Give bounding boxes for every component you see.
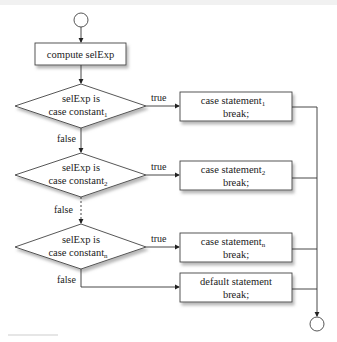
true-label-1: true [151,92,167,103]
true-label-n: true [151,233,167,244]
case-box-1: case statement1 break; [180,92,292,121]
decision-2: selExp is case constant2 [15,153,146,197]
svg-text:selExp is: selExp is [62,234,100,245]
svg-text:break;: break; [223,177,249,188]
svg-text:break;: break; [223,289,249,300]
svg-text:selExp is: selExp is [62,93,100,104]
switch-flowchart: compute selExp selExp is case constant1 … [0,0,337,342]
end-node [310,317,324,331]
decision-1: selExp is case constant1 [15,84,146,128]
true-label-2: true [151,161,167,172]
decision-n: selExp is case constantn [15,224,146,269]
case-box-2: case statement2 break; [180,161,292,190]
svg-text:default statement: default statement [200,276,272,287]
false-label-2: false [54,204,73,215]
false-label-n: false [57,274,76,285]
svg-text:break;: break; [223,108,249,119]
start-node [74,13,88,27]
svg-text:selExp is: selExp is [62,162,100,173]
case-box-n: case statementn break; [180,233,292,262]
compute-box: compute selExp [35,43,126,65]
default-box: default statement break; [180,273,292,302]
figure-caption-fragment [8,334,58,336]
svg-text:break;: break; [223,249,249,260]
false-label-1: false [57,133,76,144]
svg-text:compute selExp: compute selExp [47,49,114,60]
